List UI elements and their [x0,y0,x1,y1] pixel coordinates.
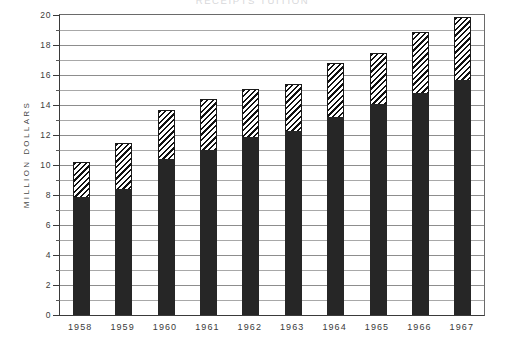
x-axis-label-1967: 1967 [450,322,474,332]
y-axis-tick-4 [53,255,60,256]
chart-title: RECEIPTS TUITION [0,0,505,7]
y-axis-title: MILLION DOLLARS [22,85,31,225]
bar-segment-solid-1963 [285,131,302,316]
y-axis-tick-3 [56,270,60,271]
y-axis-tick-10 [53,165,60,166]
y-axis-label-16: 16 [40,70,51,80]
y-axis-label-10: 10 [40,160,51,170]
y-axis-tick-15 [56,90,60,91]
plot-area: 02468101214161820 [59,14,485,316]
y-axis-tick-17 [56,60,60,61]
bar-segment-solid-1959 [115,189,132,315]
x-axis-label-1958: 1958 [68,322,92,332]
y-axis-tick-11 [56,150,60,151]
y-axis-tick-20 [53,15,60,16]
bar-1960 [158,110,175,316]
x-axis-label-1959: 1959 [110,322,134,332]
y-axis-label-20: 20 [40,10,51,20]
x-axis-label-1963: 1963 [280,322,304,332]
bar-segment-solid-1960 [158,159,175,315]
bar-1965 [370,53,387,316]
y-axis-label-14: 14 [40,100,51,110]
bar-segment-solid-1961 [200,150,217,315]
bar-segment-solid-1967 [454,80,471,316]
bar-chart: RECEIPTS TUITION MILLION DOLLARS 0246810… [0,0,505,350]
y-axis-label-8: 8 [46,190,51,200]
y-axis-tick-9 [56,180,60,181]
x-axis-label-1965: 1965 [365,322,389,332]
x-axis-label-1962: 1962 [238,322,262,332]
y-axis-label-12: 12 [40,130,51,140]
y-axis-tick-8 [53,195,60,196]
y-axis-tick-19 [56,30,60,31]
x-axis-label-1961: 1961 [195,322,219,332]
y-axis-label-2: 2 [46,280,51,290]
bar-segment-solid-1966 [412,93,429,315]
x-axis-label-1964: 1964 [322,322,346,332]
y-axis-label-0: 0 [46,310,51,320]
y-axis-label-18: 18 [40,40,51,50]
y-axis-tick-16 [53,75,60,76]
bar-segment-solid-1962 [242,137,259,316]
y-axis-tick-1 [56,300,60,301]
y-axis-tick-18 [53,45,60,46]
y-axis-tick-5 [56,240,60,241]
y-axis-tick-6 [53,225,60,226]
bar-1967 [454,17,471,316]
bar-segment-solid-1958 [73,197,90,316]
y-axis-tick-13 [56,120,60,121]
bar-1962 [242,89,259,316]
y-axis-tick-12 [53,135,60,136]
x-axis-label-1960: 1960 [153,322,177,332]
bar-1966 [412,32,429,316]
bar-segment-solid-1964 [327,117,344,315]
x-axis-label-1966: 1966 [407,322,431,332]
bar-1963 [285,84,302,315]
bar-1961 [200,99,217,315]
bar-1959 [115,143,132,316]
bar-1958 [73,162,90,315]
y-axis-tick-7 [56,210,60,211]
y-axis-label-4: 4 [46,250,51,260]
y-axis-tick-0 [53,315,60,316]
y-axis-tick-14 [53,105,60,106]
bar-1964 [327,63,344,315]
y-axis-tick-2 [53,285,60,286]
y-axis-label-6: 6 [46,220,51,230]
bar-segment-solid-1965 [370,104,387,316]
